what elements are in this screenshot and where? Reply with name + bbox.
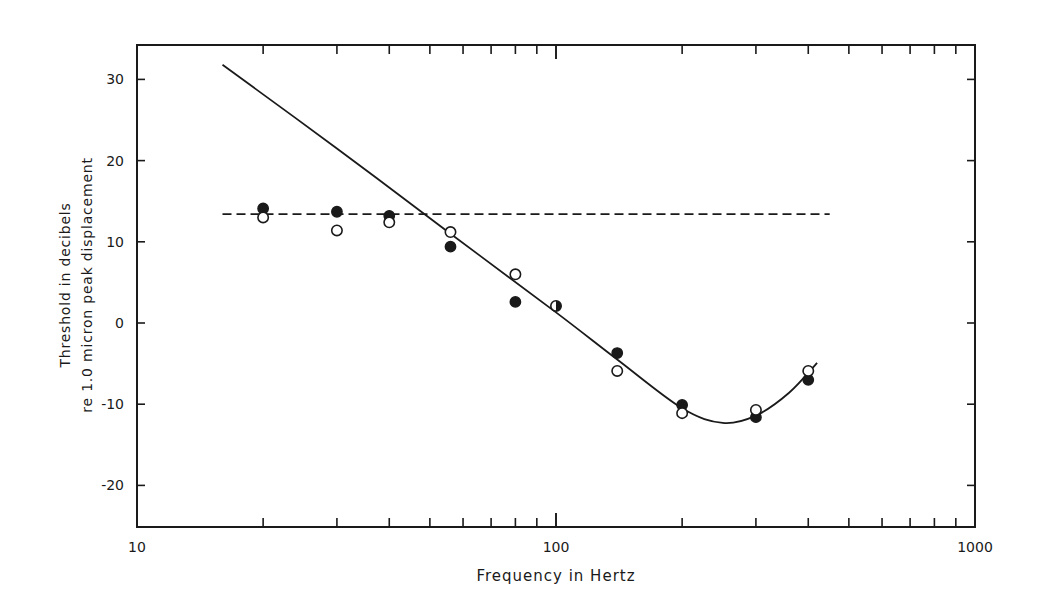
data-points [258, 203, 814, 422]
filled-circle-marker [332, 207, 342, 217]
y-axis-label-line-1: Threshold in decibels [57, 202, 73, 368]
y-tick-label: 10 [106, 234, 124, 250]
curves [223, 65, 830, 423]
open-circle-marker [258, 212, 268, 222]
plot-frame [137, 45, 975, 527]
open-circle-marker [445, 227, 455, 237]
y-tick-label: 20 [106, 153, 124, 169]
open-circle-marker [332, 225, 342, 235]
y-tick-label: 30 [106, 71, 124, 87]
x-axis-ticks [263, 45, 956, 527]
y-axis-label: Threshold in decibels re 1.0 micron peak… [57, 157, 95, 413]
y-tick-label: -10 [101, 396, 124, 412]
open-circle-marker [751, 405, 761, 415]
x-axis-label: Frequency in Hertz [476, 567, 635, 585]
filled-circle-marker [445, 241, 455, 251]
y-tick-label: 0 [115, 315, 124, 331]
open-circle-marker [803, 366, 813, 376]
open-circle-marker [510, 269, 520, 279]
open-circle-marker [677, 408, 687, 418]
x-tick-label: 10 [128, 539, 146, 555]
y-axis-tick-labels: -20-100102030 [101, 71, 124, 493]
half-filled-circle-marker [551, 301, 561, 311]
threshold-frequency-chart: 101001000 -20-100102030 Frequency in Her… [0, 0, 1037, 614]
y-axis-ticks [137, 79, 975, 485]
x-axis-tick-labels: 101001000 [128, 539, 993, 555]
filled-circle-marker [612, 348, 622, 358]
x-tick-label: 1000 [957, 539, 993, 555]
solid-fit-curve [223, 65, 818, 423]
filled-circle-marker [510, 297, 520, 307]
open-circle-marker [612, 366, 622, 376]
x-tick-label: 100 [543, 539, 570, 555]
y-axis-label-line-2: re 1.0 micron peak displacement [79, 157, 95, 413]
y-tick-label: -20 [101, 477, 124, 493]
open-circle-marker [384, 217, 394, 227]
